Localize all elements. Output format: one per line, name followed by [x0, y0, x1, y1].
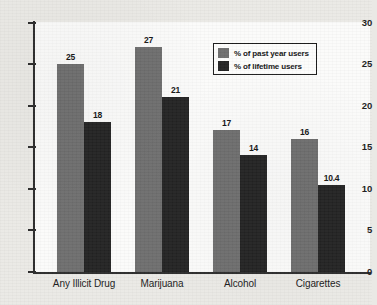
bar-value-alcohol-lifetime: 14	[240, 144, 267, 153]
y-axis-tick-25	[28, 63, 36, 65]
y-axis-tick-label-15: 15	[346, 142, 372, 152]
y-axis-tick-label-30: 30	[346, 18, 372, 28]
y-axis-tick-label-25: 25	[346, 59, 372, 69]
bar-marijuana-past-year	[135, 47, 162, 272]
legend-item-past-year-users: % of past year users	[218, 47, 312, 59]
y-axis-tick-label-10: 10	[346, 184, 372, 194]
bar-value-marijuana-past-year: 27	[135, 36, 162, 45]
bar-alcohol-lifetime	[240, 155, 267, 272]
bar-any-illicit-drug-lifetime	[84, 122, 111, 272]
bar-value-cigarettes-lifetime: 10.4	[318, 174, 345, 183]
bar-value-any-illicit-drug-lifetime: 18	[84, 111, 111, 120]
bar-value-alcohol-past-year: 17	[213, 119, 240, 128]
y-axis-tick-5	[28, 229, 36, 231]
y-axis-tick-15	[28, 146, 36, 148]
y-axis-tick-10	[28, 188, 36, 190]
bar-value-marijuana-lifetime: 21	[162, 86, 189, 95]
y-axis-tick-label-5: 5	[346, 225, 372, 235]
y-axis-tick-0	[28, 271, 36, 273]
legend-swatch-lifetime-users	[218, 61, 229, 71]
legend-label-past-year-users: % of past year users	[234, 49, 309, 58]
bar-value-any-illicit-drug-past-year: 25	[57, 53, 84, 62]
bar-value-cigarettes-past-year: 16	[291, 128, 318, 137]
bar-cigarettes-lifetime	[318, 185, 345, 272]
bar-cigarettes-past-year	[291, 139, 318, 272]
category-label-cigarettes: Cigarettes	[258, 278, 377, 289]
legend-item-lifetime-users: % of lifetime users	[218, 60, 312, 72]
chart-legend: % of past year users % of lifetime users	[213, 43, 317, 75]
bar-alcohol-past-year	[213, 130, 240, 272]
bar-marijuana-lifetime	[162, 97, 189, 272]
y-axis-tick-label-0: 0	[346, 267, 372, 277]
bar-any-illicit-drug-past-year	[57, 64, 84, 272]
y-axis-tick-label-20: 20	[346, 101, 372, 111]
x-axis-line	[33, 272, 371, 274]
y-axis-tick-20	[28, 105, 36, 107]
y-axis-tick-30	[28, 22, 36, 24]
legend-swatch-past-year-users	[218, 48, 229, 58]
legend-label-lifetime-users: % of lifetime users	[234, 62, 302, 71]
